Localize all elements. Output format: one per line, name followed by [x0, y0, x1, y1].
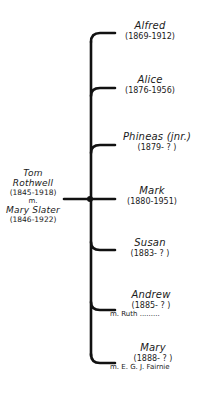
parents-block: Tom Rothwell (1845-1918) m. Mary Slater … [2, 168, 64, 224]
child-andrew: Andrew (1885- ? ) m. Ruth ......... [110, 289, 192, 318]
child-mark: Mark (1880-1951) [122, 185, 182, 206]
child-dates: (1883- ? ) [120, 249, 180, 258]
child-dates: (1888- ? ) [110, 354, 196, 363]
child-alice: Alice (1876-1956) [120, 74, 180, 95]
branch-phineas [91, 145, 115, 153]
child-dates: (1876-1956) [120, 86, 180, 95]
mother-dates: (1846-1922) [2, 216, 64, 225]
father-name: Tom Rothwell [2, 168, 64, 189]
branch-alice [91, 88, 115, 96]
child-dates: (1885- ? ) [110, 301, 192, 310]
branch-alfred [91, 33, 115, 42]
branch-susan [91, 242, 115, 250]
child-spouse: m. Ruth ......... [110, 310, 192, 318]
child-dates: (1869-1912) [120, 32, 180, 41]
father-dates: (1845-1918) [2, 189, 64, 198]
child-mary: Mary (1888- ? ) m. E. G. J. Fairnie [110, 342, 196, 371]
child-name: Phineas (jnr.) [118, 131, 196, 143]
child-dates: (1879- ? ) [118, 143, 196, 152]
child-susan: Susan (1883- ? ) [120, 237, 180, 258]
marriage-label: m. [2, 197, 64, 205]
child-phineas: Phineas (jnr.) (1879- ? ) [118, 131, 196, 152]
child-name: Mary [110, 342, 196, 354]
child-spouse: m. E. G. J. Fairnie [110, 363, 196, 371]
child-name: Alfred [120, 20, 180, 32]
child-dates: (1880-1951) [122, 197, 182, 206]
junction-dot [87, 196, 93, 202]
child-name: Alice [120, 74, 180, 86]
child-name: Susan [120, 237, 180, 249]
child-alfred: Alfred (1869-1912) [120, 20, 180, 41]
child-name: Andrew [110, 289, 192, 301]
child-name: Mark [122, 185, 182, 197]
